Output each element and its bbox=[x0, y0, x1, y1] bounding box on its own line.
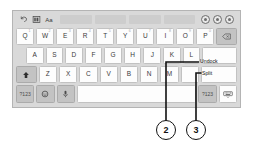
key-i[interactable]: 8 I bbox=[156, 28, 174, 45]
backspace-icon bbox=[222, 33, 231, 40]
microphone-key[interactable] bbox=[57, 85, 75, 103]
key-c[interactable]: C bbox=[79, 66, 97, 83]
hide-keyboard-key[interactable] bbox=[219, 85, 237, 103]
key-n[interactable]: N bbox=[140, 66, 158, 83]
microphone-icon bbox=[62, 90, 69, 98]
key-comma[interactable] bbox=[181, 66, 199, 83]
key-row-4: ?123 ?123 bbox=[16, 85, 237, 103]
callout-bubble-2: 2 bbox=[156, 120, 176, 140]
key-t[interactable]: 5 T bbox=[96, 28, 114, 45]
key-label: ?123 bbox=[20, 92, 31, 97]
key-hint: 8 bbox=[169, 30, 171, 34]
key-m[interactable]: M bbox=[160, 66, 178, 83]
key-label: A bbox=[33, 52, 37, 59]
key-k[interactable]: K bbox=[163, 47, 181, 64]
key-label: H bbox=[130, 52, 135, 59]
key-label: V bbox=[106, 71, 110, 78]
key-label: T bbox=[103, 33, 107, 40]
key-p[interactable]: 0 P bbox=[196, 28, 214, 45]
spacebar[interactable] bbox=[77, 85, 196, 103]
key-d[interactable]: D bbox=[65, 47, 83, 64]
key-label: Y bbox=[123, 33, 127, 40]
key-e[interactable]: 3 E bbox=[56, 28, 74, 45]
key-a[interactable]: A bbox=[26, 47, 44, 64]
key-label: B bbox=[127, 71, 131, 78]
suggestion-chip[interactable] bbox=[164, 15, 196, 24]
key-label: K bbox=[170, 52, 174, 59]
layout-grid-icon[interactable] bbox=[31, 15, 41, 25]
key-hint: 2 bbox=[49, 30, 51, 34]
key-b[interactable]: B bbox=[120, 66, 138, 83]
key-label: W bbox=[42, 33, 48, 40]
suggestion-chip[interactable] bbox=[95, 15, 127, 24]
key-label: X bbox=[66, 71, 70, 78]
key-j[interactable]: J bbox=[143, 47, 161, 64]
key-label: G bbox=[111, 52, 116, 59]
text-size-icon[interactable]: Aa bbox=[44, 15, 54, 25]
key-u[interactable]: 7 U bbox=[136, 28, 154, 45]
key-row-1: 1 Q 2 W 3 E 4 R 5 T 6 Y 7 U 8 I bbox=[16, 28, 237, 45]
key-label: R bbox=[83, 33, 88, 40]
key-hint: 0 bbox=[209, 30, 211, 34]
suggestion-chip[interactable] bbox=[60, 15, 92, 24]
symbols-key-left[interactable]: ?123 bbox=[16, 85, 34, 103]
key-label: Q bbox=[22, 33, 27, 40]
backspace-key[interactable] bbox=[216, 28, 236, 45]
key-hint: 1 bbox=[29, 30, 31, 34]
key-hint: 5 bbox=[109, 30, 111, 34]
close-circle-icon[interactable] bbox=[225, 15, 234, 24]
key-hint: 6 bbox=[129, 30, 131, 34]
key-label: C bbox=[86, 71, 91, 78]
key-label: D bbox=[72, 52, 77, 59]
key-label: O bbox=[183, 33, 188, 40]
settings-circle-icon[interactable] bbox=[201, 15, 210, 24]
emoji-key[interactable] bbox=[36, 85, 54, 103]
key-y[interactable]: 6 Y bbox=[116, 28, 134, 45]
toolbar-right-icons bbox=[201, 15, 235, 24]
key-label: N bbox=[147, 71, 152, 78]
key-label: F bbox=[92, 52, 96, 59]
key-f[interactable]: F bbox=[85, 47, 103, 64]
key-label: L bbox=[190, 52, 194, 59]
key-label: U bbox=[143, 33, 148, 40]
callout-label-split: Split bbox=[202, 71, 212, 76]
undo-icon[interactable] bbox=[18, 15, 28, 25]
key-label: ?123 bbox=[202, 92, 213, 97]
shift-key[interactable] bbox=[16, 66, 37, 83]
key-w[interactable]: 2 W bbox=[36, 28, 54, 45]
key-r[interactable]: 4 R bbox=[76, 28, 94, 45]
key-v[interactable]: V bbox=[100, 66, 118, 83]
key-hint: 9 bbox=[189, 30, 191, 34]
key-label: M bbox=[167, 71, 172, 78]
key-l[interactable]: L bbox=[183, 47, 201, 64]
key-label: P bbox=[203, 33, 207, 40]
callout-bubble-3: 3 bbox=[186, 120, 206, 140]
key-g[interactable]: G bbox=[104, 47, 122, 64]
hide-keyboard-icon bbox=[223, 91, 233, 98]
key-z[interactable]: Z bbox=[39, 66, 57, 83]
key-q[interactable]: 1 Q bbox=[16, 28, 34, 45]
key-hint: 4 bbox=[89, 30, 91, 34]
symbols-key-right[interactable]: ?123 bbox=[198, 85, 216, 103]
suggestion-bar[interactable] bbox=[60, 15, 195, 24]
suggestion-chip[interactable] bbox=[129, 15, 161, 24]
key-hint: 3 bbox=[69, 30, 71, 34]
more-circle-icon[interactable] bbox=[213, 15, 222, 24]
key-label: S bbox=[52, 52, 56, 59]
keyboard-toolbar: Aa bbox=[16, 13, 237, 26]
emoji-icon bbox=[41, 90, 49, 98]
key-label: I bbox=[164, 33, 166, 40]
key-label: E bbox=[63, 33, 67, 40]
key-o[interactable]: 9 O bbox=[176, 28, 194, 45]
key-hint: 7 bbox=[149, 30, 151, 34]
shift-icon bbox=[22, 71, 30, 79]
key-label: Z bbox=[46, 71, 50, 78]
key-label: J bbox=[151, 52, 154, 59]
callout-label-undock: Undock bbox=[200, 59, 218, 64]
key-h[interactable]: H bbox=[124, 47, 142, 64]
key-x[interactable]: X bbox=[59, 66, 77, 83]
key-s[interactable]: S bbox=[46, 47, 64, 64]
